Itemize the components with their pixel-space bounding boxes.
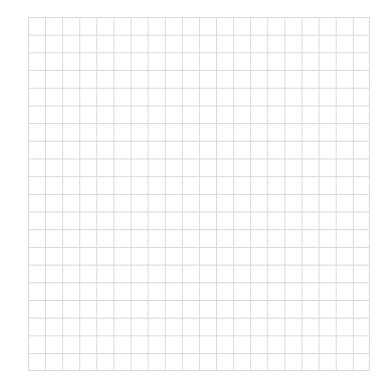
empty-grid	[28, 17, 370, 371]
